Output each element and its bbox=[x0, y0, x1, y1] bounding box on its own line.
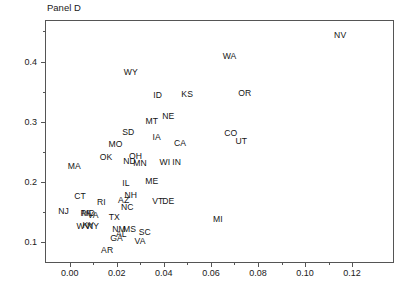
data-point-label: NJ bbox=[58, 206, 69, 216]
data-point-label: TX bbox=[109, 212, 120, 222]
data-point-label: MI bbox=[213, 214, 223, 224]
data-point-label: IA bbox=[152, 132, 160, 142]
x-axis-tick bbox=[352, 263, 353, 267]
data-point-label: NC bbox=[121, 202, 134, 212]
y-axis-tick-label: 0.2 bbox=[24, 177, 37, 187]
data-point-label: SD bbox=[122, 127, 134, 137]
data-point-label: KS bbox=[181, 89, 193, 99]
data-point-label: NE bbox=[162, 111, 174, 121]
data-point-label: MO bbox=[108, 139, 122, 149]
data-point-label: GA bbox=[110, 233, 123, 243]
data-point-label: WY bbox=[124, 67, 138, 77]
y-axis-minor-tick bbox=[43, 31, 45, 32]
y-axis-tick bbox=[41, 62, 45, 63]
x-axis-tick-label: 0.08 bbox=[249, 268, 267, 278]
data-point-label: OR bbox=[238, 88, 251, 98]
x-axis-tick bbox=[305, 263, 306, 267]
data-point-label: WI bbox=[159, 157, 170, 167]
data-point-label: IN bbox=[172, 157, 181, 167]
x-axis-tick bbox=[70, 263, 71, 267]
x-axis-minor-tick bbox=[187, 263, 188, 265]
x-axis-tick-label: 0.06 bbox=[202, 268, 220, 278]
y-axis-tick bbox=[41, 182, 45, 183]
x-axis-minor-tick bbox=[234, 263, 235, 265]
scatter-plot-figure: Panel D Change in High Sch. Grad. Rate, … bbox=[0, 0, 404, 292]
data-point-label: AR bbox=[101, 245, 113, 255]
x-axis-minor-tick bbox=[140, 263, 141, 265]
y-axis-tick-label: 0.4 bbox=[24, 57, 37, 67]
data-point-label: IL bbox=[122, 178, 129, 188]
x-axis-tick bbox=[117, 263, 118, 267]
data-point-label: CT bbox=[74, 191, 86, 201]
x-axis-tick-label: 0.10 bbox=[296, 268, 314, 278]
data-point-label: VA bbox=[88, 210, 99, 220]
x-axis-tick-label: 0.02 bbox=[108, 268, 126, 278]
data-point-label: WV bbox=[77, 221, 91, 231]
data-point-label: VA bbox=[135, 236, 146, 246]
y-axis-minor-tick bbox=[43, 152, 45, 153]
x-axis-tick-label: 0.04 bbox=[155, 268, 173, 278]
y-axis-tick bbox=[41, 242, 45, 243]
data-point-label: ID bbox=[153, 90, 162, 100]
data-point-label: NV bbox=[334, 30, 346, 40]
data-point-label: MT bbox=[146, 116, 159, 126]
data-point-label: OK bbox=[100, 152, 113, 162]
data-point-label: MN bbox=[133, 158, 147, 168]
data-point-label: WA bbox=[223, 51, 237, 61]
data-point-label: DE bbox=[162, 196, 174, 206]
y-axis-tick-label: 0.1 bbox=[24, 237, 37, 247]
plot-area: NVWAWYORKSIDNEMTSDCOIAUTCAMOOHOKNDMNWIIN… bbox=[46, 21, 393, 262]
x-axis-minor-tick bbox=[329, 263, 330, 265]
x-axis-tick-label: 0.00 bbox=[61, 268, 79, 278]
data-point-label: ME bbox=[145, 176, 158, 186]
data-point-label: CA bbox=[174, 138, 186, 148]
data-point-label: UT bbox=[236, 136, 248, 146]
data-point-label: MA bbox=[68, 161, 81, 171]
y-axis-tick-label: 0.3 bbox=[24, 117, 37, 127]
data-point-label: RI bbox=[97, 197, 106, 207]
x-axis-tick-label: 0.12 bbox=[343, 268, 361, 278]
plot-frame: NVWAWYORKSIDNEMTSDCOIAUTCAMOOHOKNDMNWIIN… bbox=[45, 20, 394, 263]
x-axis-tick bbox=[211, 263, 212, 267]
x-axis-tick bbox=[164, 263, 165, 267]
panel-title: Panel D bbox=[47, 2, 81, 13]
y-axis-tick bbox=[41, 122, 45, 123]
y-axis-minor-tick bbox=[43, 92, 45, 93]
y-axis-minor-tick bbox=[43, 212, 45, 213]
x-axis-minor-tick bbox=[93, 263, 94, 265]
x-axis-minor-tick bbox=[282, 263, 283, 265]
x-axis-tick bbox=[258, 263, 259, 267]
